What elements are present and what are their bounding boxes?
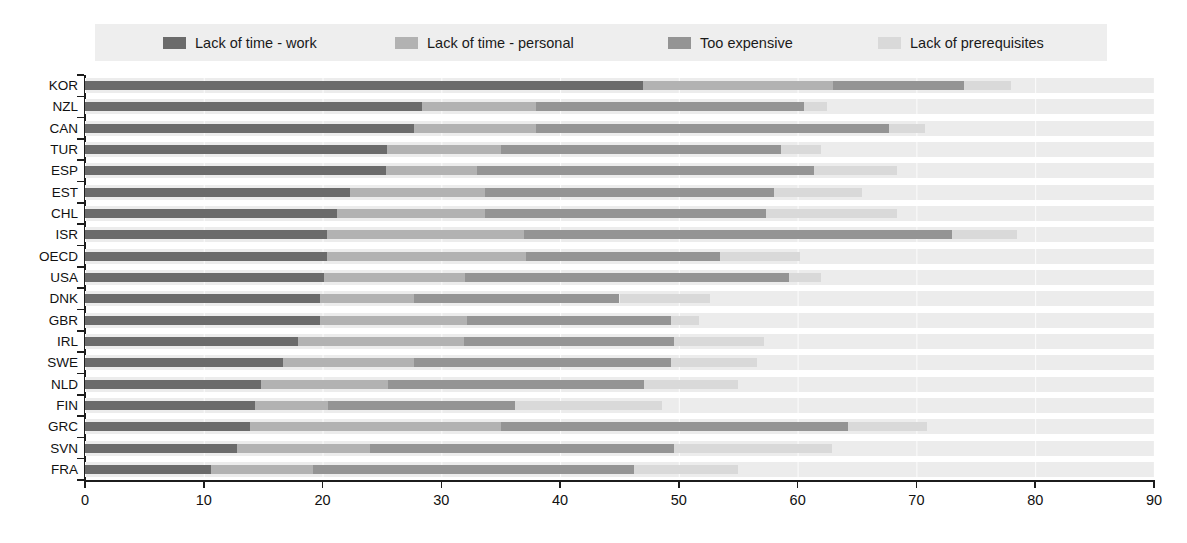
legend-label: Lack of prerequisites [910, 35, 1044, 51]
legend-swatch-icon [668, 37, 691, 49]
row-band [85, 291, 1154, 306]
row-band [85, 377, 1154, 392]
row-band [85, 313, 1154, 328]
bar-segment [485, 209, 765, 218]
bar-segment [467, 316, 670, 325]
bar-segment [386, 166, 477, 175]
category-label: NLD [8, 377, 78, 392]
row-band [85, 462, 1154, 477]
bar-segment [720, 252, 800, 261]
x-axis-tick-label: 90 [1134, 492, 1174, 508]
bar-segment [85, 316, 320, 325]
category-label: SWE [8, 355, 78, 370]
y-axis-tick [77, 266, 84, 268]
x-axis-tick-label: 70 [896, 492, 936, 508]
category-label: IRL [8, 334, 78, 349]
category-label: ESP [8, 163, 78, 178]
bar-segment [298, 337, 464, 346]
legend-item: Lack of prerequisites [878, 24, 1044, 61]
y-axis-tick [77, 437, 84, 439]
bar-segment [501, 145, 781, 154]
category-label: FIN [8, 398, 78, 413]
category-label: SVN [8, 441, 78, 456]
category-label: TUR [8, 142, 78, 157]
y-axis-tick [77, 117, 84, 119]
category-label: ISR [8, 227, 78, 242]
y-axis-tick [77, 287, 84, 289]
category-label: GRC [8, 419, 78, 434]
row-band [85, 206, 1154, 221]
row-band [85, 270, 1154, 285]
x-axis-tick [678, 481, 680, 488]
row-band [85, 78, 1154, 93]
category-label: KOR [8, 78, 78, 93]
bar-segment [526, 252, 721, 261]
bar-segment [85, 102, 422, 111]
bar-segment [324, 273, 465, 282]
bar-segment [85, 230, 327, 239]
bar-segment [255, 401, 329, 410]
bar-segment [804, 102, 828, 111]
bar-segment [536, 124, 889, 133]
bar-segment [634, 465, 739, 474]
bar-segment [85, 444, 237, 453]
legend-label: Too expensive [700, 35, 793, 51]
category-label: CAN [8, 121, 78, 136]
bar-segment [328, 401, 514, 410]
bar-segment [964, 81, 1012, 90]
bar-segment [85, 252, 327, 261]
bar-segment [952, 230, 1017, 239]
bar-segment [283, 358, 414, 367]
bar-segment [370, 444, 674, 453]
row-band [85, 99, 1154, 114]
row-band [85, 163, 1154, 178]
bar-segment [327, 252, 525, 261]
category-label: USA [8, 270, 78, 285]
bar-segment [464, 337, 674, 346]
bar-segment [85, 166, 386, 175]
bar-segment [674, 444, 832, 453]
bar-segment [644, 380, 738, 389]
x-axis-tick [797, 481, 799, 488]
x-axis-tick-label: 10 [184, 492, 224, 508]
bar-segment [387, 145, 501, 154]
y-axis-tick [77, 479, 84, 481]
plot-area: KORNZLCANTURESPESTCHLISROECDUSADNKGBRIRL… [85, 75, 1154, 480]
bar-segment [85, 188, 350, 197]
legend-label: Lack of time - work [195, 35, 317, 51]
legend-swatch-icon [878, 37, 901, 49]
x-axis-tick-label: 80 [1015, 492, 1055, 508]
x-axis-tick-label: 40 [540, 492, 580, 508]
bar-segment [515, 401, 662, 410]
bar-segment [674, 337, 764, 346]
bar-segment [789, 273, 821, 282]
bar-segment [671, 316, 700, 325]
bar-segment [85, 358, 283, 367]
x-axis-tick-label: 60 [778, 492, 818, 508]
y-axis-tick [77, 394, 84, 396]
bar-segment [848, 422, 928, 431]
y-axis-tick [77, 309, 84, 311]
bar-segment [350, 188, 485, 197]
x-axis-tick [441, 481, 443, 488]
bar-segment [313, 465, 634, 474]
category-label: GBR [8, 313, 78, 328]
bar-segment [211, 465, 313, 474]
legend-swatch-icon [395, 37, 418, 49]
bar-segment [414, 124, 536, 133]
x-axis-tick [322, 481, 324, 488]
x-axis-tick-label: 0 [65, 492, 105, 508]
bar-segment [85, 209, 337, 218]
row-band [85, 185, 1154, 200]
category-label: NZL [8, 99, 78, 114]
bar-segment [85, 401, 255, 410]
x-axis-tick [559, 481, 561, 488]
x-axis-tick-label: 50 [659, 492, 699, 508]
category-label: CHL [8, 206, 78, 221]
bar-segment [85, 337, 298, 346]
y-axis-tick [77, 330, 84, 332]
bar-segment [671, 358, 758, 367]
y-axis-tick [77, 202, 84, 204]
bar-segment [414, 294, 619, 303]
category-label: DNK [8, 291, 78, 306]
